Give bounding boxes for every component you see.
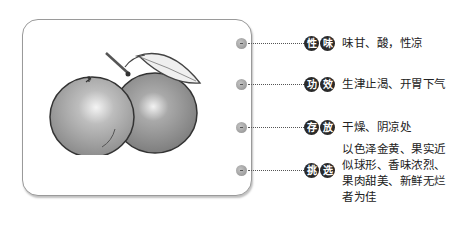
category-badge: 挑 选 — [304, 163, 335, 178]
dotted-leader-line — [248, 43, 304, 44]
category-badge: 性 味 — [304, 36, 335, 51]
info-text: 生津止渴、开胃下气 — [342, 76, 446, 92]
info-text: 以色泽金黄、果实近似球形、香味浓烈、果肉甜美、新鲜无烂者为佳 — [342, 141, 452, 205]
bullet-dot-icon — [236, 79, 247, 90]
bullet-dot-icon — [236, 122, 247, 133]
dotted-leader-line — [248, 84, 304, 85]
dotted-leader-line — [248, 127, 304, 128]
bullet-dot-icon — [236, 38, 247, 49]
category-badge: 功 效 — [304, 77, 335, 92]
category-badge: 存 放 — [304, 120, 335, 135]
bullet-dot-icon — [236, 165, 247, 176]
info-text: 干燥、阴凉处 — [342, 119, 411, 135]
dotted-leader-line — [248, 170, 304, 171]
info-text: 味甘、酸，性凉 — [342, 35, 423, 51]
orange-fruit-illustration — [40, 45, 210, 155]
